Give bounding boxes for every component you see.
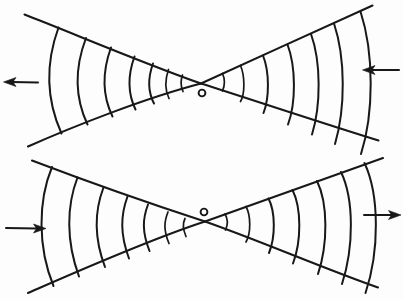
top-left-arc-2 [78,38,88,125]
bottom-right-arc-7 [365,163,376,293]
top-upper-left-ray [25,15,202,84]
bottom-right-arrow [364,211,401,220]
illusion-figure [0,0,403,300]
bottom-left-arrow [6,224,46,233]
bottom-left-arc-4 [122,197,129,259]
top-left-arc-1 [49,28,61,134]
figure-canvas [0,0,403,300]
bottom-left-arrow-shaft [6,228,37,229]
bottom-right-arc-1 [225,214,227,230]
bottom-bowtie [28,158,383,293]
top-right-arc-1 [223,74,225,92]
top-right-arc-7 [361,12,371,155]
top-bowtie [25,6,379,155]
bottom-left-arc-3 [97,188,105,268]
bottom-upper-left-ray [32,161,205,222]
bottom-lower-right-ray [205,222,378,288]
bottom-left-arc-1 [41,167,53,286]
bottom-right-arc-5 [317,181,325,274]
top-right-fan [223,12,371,155]
bottom-upper-right-ray [205,158,383,222]
bottom-right-arc-4 [293,190,300,264]
top-left-arc-4 [130,57,136,110]
top-left-fan [49,28,183,134]
bottom-right-arc-6 [341,172,351,284]
bottom-lower-left-ray [28,222,205,294]
bottom-right-fan [225,163,376,293]
top-left-arc-3 [105,48,113,117]
top-center-marker [199,90,206,97]
bottom-center-marker [201,209,208,216]
top-left-arrow [4,78,39,87]
bottom-left-fan [41,167,186,286]
bottom-left-arc-2 [69,178,79,277]
top-right-arrow [363,66,400,75]
top-lower-right-ray [201,84,379,141]
top-left-arrow-shaft [12,82,38,83]
bottom-left-arc-6 [165,212,169,244]
